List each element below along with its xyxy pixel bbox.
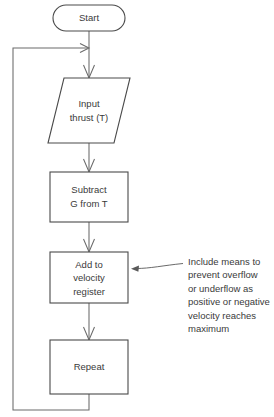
annotation-line-1: Include means to (188, 256, 260, 267)
connector-subtract-to-add (84, 222, 95, 252)
node-start-label: Start (79, 12, 99, 23)
annotation-line-3: or underflow as (188, 283, 253, 294)
flowchart-page: Start Input thrust (T) Subtract G from T… (0, 0, 274, 417)
annotation-line-5: velocity reaches (188, 310, 256, 321)
node-subtract-line-1: Subtract (71, 184, 107, 195)
node-add-velocity-line-1: Add to (75, 259, 102, 270)
node-repeat-label: Repeat (74, 361, 105, 372)
annotation-overflow-note: Include means to prevent overflow or und… (131, 256, 270, 335)
node-input-thrust-line-1: Input (78, 98, 99, 109)
flowchart-canvas: Start Input thrust (T) Subtract G from T… (0, 0, 274, 417)
connector-input-to-subtract (84, 143, 95, 172)
connector-add-to-repeat (84, 303, 95, 340)
node-start: Start (53, 5, 125, 31)
annotation-leader-arrow-icon (131, 266, 139, 272)
annotation-line-6: maximum (188, 323, 229, 334)
node-input-thrust: Input thrust (T) (48, 78, 130, 143)
node-input-thrust-line-2: thrust (T) (70, 112, 109, 123)
annotation-line-2: prevent overflow (188, 269, 258, 280)
node-add-velocity-line-2: velocity (73, 272, 105, 283)
connector-start-to-input (84, 31, 95, 78)
node-repeat: Repeat (50, 340, 128, 394)
node-subtract: Subtract G from T (50, 172, 128, 222)
node-add-velocity: Add to velocity register (50, 252, 128, 303)
node-add-velocity-line-3: register (73, 286, 105, 297)
annotation-line-4: positive or negative (188, 296, 270, 307)
node-subtract-line-2: G from T (70, 198, 107, 209)
